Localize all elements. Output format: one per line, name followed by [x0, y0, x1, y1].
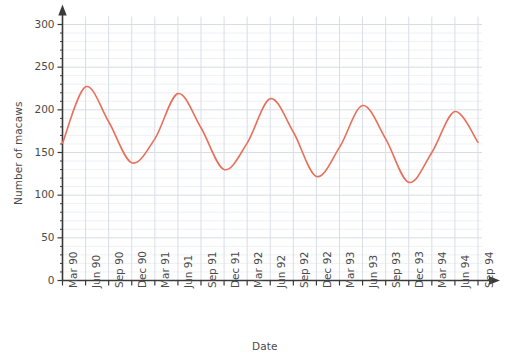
- x-tick-label: Mar 94: [436, 251, 448, 288]
- macaw-population-chart: Number of macaws Date 050100150200250300…: [0, 0, 513, 362]
- x-tick-label: Mar 91: [159, 251, 171, 288]
- x-tick-label: Jun 93: [367, 254, 379, 287]
- x-tick-label: Sep 90: [113, 251, 125, 288]
- x-tick-label: Dec 93: [413, 250, 425, 287]
- x-tick-label: Sep 94: [483, 251, 495, 288]
- y-tick-label: 150: [21, 146, 55, 158]
- x-tick-label: Sep 91: [206, 251, 218, 288]
- y-tick-label: 0: [21, 274, 55, 286]
- x-tick-label: Jun 94: [459, 254, 471, 287]
- y-tick-label: 200: [21, 103, 55, 115]
- major-horizontal-gridlines: [63, 25, 483, 238]
- x-tick-label: Jun 91: [182, 254, 194, 287]
- x-axis-title: Date: [252, 340, 278, 352]
- x-tick-label: Dec 90: [136, 250, 148, 287]
- x-tick-label: Mar 92: [252, 251, 264, 288]
- chart-plot-area: [0, 0, 513, 362]
- y-tick-label: 250: [21, 60, 55, 72]
- y-tick-label: 100: [21, 188, 55, 200]
- y-axis-arrowhead: [58, 5, 66, 16]
- vertical-gridlines: [63, 17, 479, 281]
- y-tick-label: 300: [21, 18, 55, 30]
- x-tick-label: Mar 90: [67, 251, 79, 288]
- x-tick-label: Sep 92: [298, 251, 310, 288]
- x-tick-label: Jun 92: [275, 254, 287, 287]
- x-tick-label: Dec 91: [229, 250, 241, 287]
- x-tick-label: Dec 92: [321, 250, 333, 287]
- x-tick-label: Mar 93: [344, 251, 356, 288]
- x-tick-label: Jun 90: [90, 254, 102, 287]
- y-tick-label: 50: [21, 231, 55, 243]
- x-tick-label: Sep 93: [390, 251, 402, 288]
